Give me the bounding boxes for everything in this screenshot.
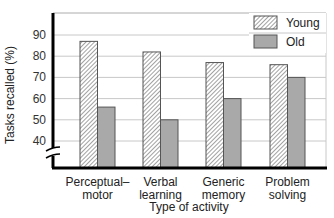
bar-young (80, 41, 98, 168)
y-tick-label: 90 (33, 28, 47, 42)
y-tick-label: 40 (33, 134, 47, 148)
bars (80, 41, 305, 168)
x-category-label: solving (269, 188, 306, 202)
x-category-label: Generic (202, 175, 244, 189)
bar-young (270, 65, 288, 168)
x-category-label: Perceptual– (65, 175, 129, 189)
y-tick-label: 60 (33, 92, 47, 106)
y-axis-ticks: 405060708090 (33, 28, 47, 148)
bar-old (224, 99, 242, 168)
x-axis-categories: Perceptual–motorVerballearningGenericmem… (65, 175, 309, 202)
bar-old (161, 120, 179, 168)
bar-old (98, 107, 116, 168)
x-category-label: Problem (265, 175, 310, 189)
x-axis-label: Type of activity (149, 200, 228, 214)
legend-swatch-old (254, 35, 277, 48)
bar-young (143, 52, 161, 168)
y-tick-label: 70 (33, 70, 47, 84)
legend-label-old: Old (286, 35, 305, 49)
bar-old (288, 77, 306, 168)
y-tick-label: 80 (33, 49, 47, 63)
legend: Young Old (249, 13, 326, 53)
legend-swatch-young (254, 16, 277, 29)
y-tick-label: 50 (33, 113, 47, 127)
x-category-label: Verbal (143, 175, 177, 189)
legend-label-young: Young (286, 16, 320, 30)
bar-young (206, 63, 224, 168)
y-axis-label: Tasks recalled (%) (3, 46, 17, 144)
x-category-label: motor (82, 188, 113, 202)
bar-chart: 405060708090 Perceptual–motorVerballearn… (0, 0, 334, 218)
